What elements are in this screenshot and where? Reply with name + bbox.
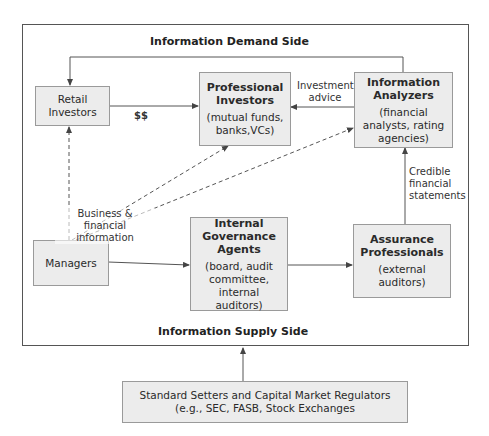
edge-label-investment-advice: Investment advice — [297, 80, 353, 104]
node-information-analyzers: Information Analyzers (financial analyst… — [354, 72, 453, 148]
supply-side-label: Information Supply Side — [158, 325, 308, 338]
node-subtitle: (e.g., SEC, FASB, Stock Exchanges — [175, 402, 355, 415]
node-internal-governance-agents: Internal Governance Agents (board, audit… — [190, 217, 288, 311]
edge-label-credible-statements: Credible financial statements — [409, 166, 461, 202]
node-title: Managers — [45, 257, 97, 270]
node-subtitle: (board, audit committee, internal audito… — [194, 260, 284, 312]
node-managers: Managers — [33, 240, 109, 286]
node-standard-setters: Standard Setters and Capital Market Regu… — [122, 381, 408, 423]
edge-label-business-financial-info: Business & financial information — [55, 208, 155, 244]
node-title: Retail Investors — [46, 93, 99, 119]
node-retail-investors: Retail Investors — [35, 86, 110, 126]
node-title: Professional Investors — [204, 81, 286, 107]
node-assurance-professionals: Assurance Professionals (external audito… — [353, 224, 451, 298]
node-title: Information Analyzers — [358, 76, 449, 102]
node-title: Standard Setters and Capital Market Regu… — [139, 389, 390, 402]
node-professional-investors: Professional Investors (mutual funds, ba… — [199, 72, 291, 146]
node-title: Internal Governance Agents — [194, 217, 284, 256]
node-title: Assurance Professionals — [360, 233, 444, 259]
node-subtitle: (financial analysts, rating agencies) — [358, 106, 449, 145]
node-subtitle: (mutual funds, banks,VCs) — [204, 111, 286, 137]
demand-side-label: Information Demand Side — [150, 35, 309, 48]
node-subtitle: (external auditors) — [360, 263, 444, 289]
edge-label-money: $$ — [134, 110, 148, 122]
